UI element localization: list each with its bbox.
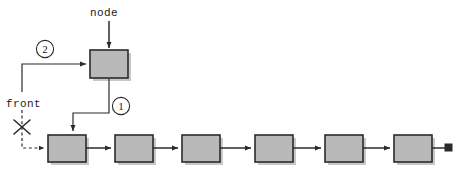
step-2-badge-label: 2 — [42, 43, 48, 55]
diagram-canvas: node 2 1 front — [0, 0, 463, 174]
step-1-badge-label: 1 — [118, 100, 124, 112]
front-pointer-label: front — [6, 98, 41, 110]
step-1-arrow — [73, 79, 109, 131]
list-node-box — [255, 135, 293, 162]
null-terminator-icon — [445, 144, 452, 151]
list-node-box — [182, 135, 220, 162]
node-pointer-label: node — [90, 7, 118, 19]
linked-list-insert-diagram: node 2 1 front — [0, 0, 463, 174]
list-node-box — [115, 135, 153, 162]
step-2-arrow — [22, 64, 86, 92]
new-node-box — [90, 50, 128, 78]
list-node-box — [48, 135, 86, 162]
list-node-box — [394, 135, 432, 162]
list-node-box — [325, 135, 363, 162]
